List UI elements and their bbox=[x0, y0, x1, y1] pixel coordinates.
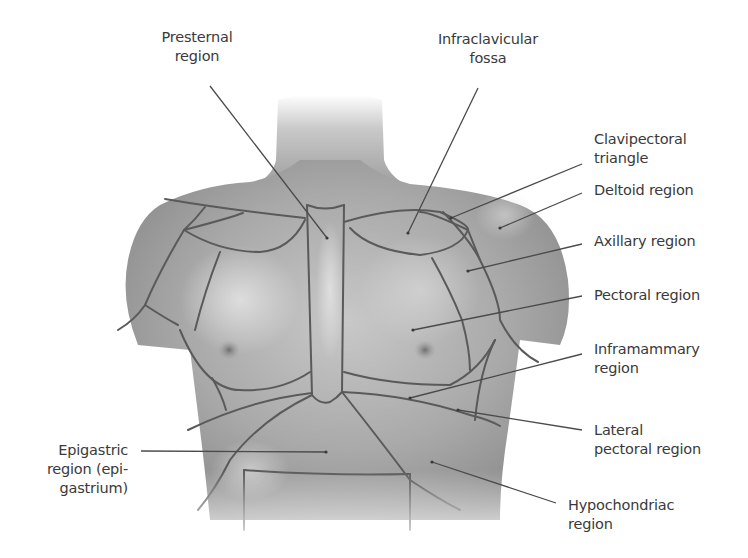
label-line: Epigastric bbox=[47, 441, 128, 460]
label-line: Lateral bbox=[594, 421, 701, 440]
left-nipple bbox=[218, 340, 240, 360]
label-line: Pectoral region bbox=[594, 286, 700, 305]
label-lateral-pectoral-region: Lateral pectoral region bbox=[594, 421, 701, 459]
label-line: Clavipectoral bbox=[594, 130, 687, 149]
label-clavipectoral-triangle: Clavipectoral triangle bbox=[594, 130, 687, 168]
label-line: fossa bbox=[418, 49, 558, 68]
label-line: gastrium) bbox=[47, 479, 128, 498]
right-nipple bbox=[414, 340, 436, 360]
label-line: pectoral region bbox=[594, 440, 701, 459]
label-infraclavicular-fossa: Infraclavicular fossa bbox=[418, 30, 558, 68]
label-line: region (epi- bbox=[47, 460, 128, 479]
chest-regions-figure: Presternal region Infraclavicular fossa … bbox=[0, 0, 748, 558]
label-inframammary-region: Inframammary region bbox=[594, 340, 700, 378]
label-line: Infraclavicular bbox=[418, 30, 558, 49]
label-hypochondriac-region: Hypochondriac region bbox=[568, 496, 674, 534]
label-line: Hypochondriac bbox=[568, 496, 674, 515]
label-deltoid-region: Deltoid region bbox=[594, 181, 694, 200]
label-presternal-region: Presternal region bbox=[142, 28, 252, 66]
label-line: Inframammary bbox=[594, 340, 700, 359]
label-line: triangle bbox=[594, 149, 687, 168]
label-line: region bbox=[568, 515, 674, 534]
label-line: Axillary region bbox=[594, 232, 695, 251]
label-line: region bbox=[142, 47, 252, 66]
label-line: Presternal bbox=[142, 28, 252, 47]
label-line: region bbox=[594, 359, 700, 378]
label-epigastric-region: Epigastric region (epi- gastrium) bbox=[47, 441, 128, 498]
label-line: Deltoid region bbox=[594, 181, 694, 200]
label-pectoral-region: Pectoral region bbox=[594, 286, 700, 305]
label-axillary-region: Axillary region bbox=[594, 232, 695, 251]
